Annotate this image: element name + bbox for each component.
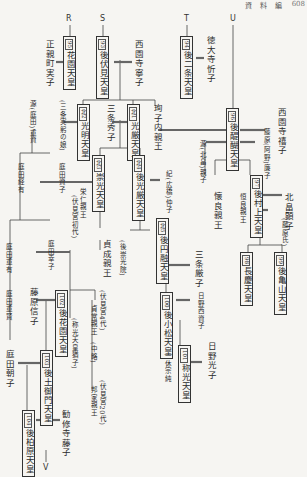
person-hino-mitsuko: 日野光子 bbox=[206, 342, 215, 380]
emperor-gokomatsu: 100後小松天皇 bbox=[160, 292, 173, 359]
person-kuniie: 邦家親王 bbox=[89, 386, 96, 416]
person-kajuji-fujiko: 勧修寺藤子 bbox=[60, 410, 69, 458]
person-tsuneyoshi: 恒良親王 bbox=[238, 193, 245, 223]
person-junshi: 珣子内親王 bbox=[152, 104, 161, 152]
emperor-godaigo: 96後醍醐天皇 bbox=[226, 108, 239, 171]
marker-t: T bbox=[184, 14, 189, 23]
emperor-gokashiwabara: 104後柏原天皇 bbox=[22, 410, 35, 477]
person-niwata-shigeari: 庭田重有 bbox=[4, 243, 11, 273]
emperor-kogon: 北1光厳天皇 bbox=[127, 104, 140, 161]
person-sadafusa: 貞成親王 bbox=[101, 240, 110, 278]
marker-s: S bbox=[100, 14, 105, 23]
person-niwata-asako: 庭田朝子 bbox=[4, 350, 13, 388]
person-kanemitsu-note: (称光天皇猶子) bbox=[70, 318, 77, 369]
person-niwata-tsunemasa: 庭田経有 bbox=[16, 163, 23, 193]
emperor-shoko: 101称光天皇 bbox=[178, 345, 191, 403]
person-sadatsune-note: (伏見宮4代) bbox=[98, 290, 105, 331]
person-fujiwara-shi: (藤原氏) bbox=[280, 218, 287, 247]
person-ki-nakako: 紀(広橋)仲子 bbox=[164, 170, 171, 214]
person-saionji-kishi: 西園寺禧子 bbox=[276, 108, 285, 156]
person-hino-sukeko: 日野西資子 bbox=[196, 292, 203, 330]
person-sanjo-saneaki-musume: (三条実躬の娘) bbox=[58, 100, 65, 151]
person-tokudaiji-kinko: 徳大寺忻子 bbox=[205, 36, 214, 84]
marker-r: R bbox=[66, 14, 72, 23]
person-gosukoin: (後崇光院) bbox=[118, 240, 125, 276]
omission-note: (中略) bbox=[89, 342, 96, 363]
person-fushiminomiya-1: (伏見宮初代) bbox=[70, 195, 77, 239]
marker-v: V bbox=[43, 463, 48, 472]
emperor-komyo: 北2光明天皇 bbox=[77, 104, 90, 161]
emperor-gotsuchimikado: 103後土御門天皇 bbox=[40, 350, 53, 426]
emperor-gofushimi: 93後伏見天皇 bbox=[96, 36, 109, 99]
emperor-suko: 北3崇光天皇 bbox=[92, 155, 105, 212]
emperor-gokameyama: 99後亀山天皇 bbox=[274, 252, 287, 315]
emperor-gomurakami: 97後村上天皇 bbox=[250, 175, 263, 238]
person-minamoto-shigesuke: 源(庭田)重資 bbox=[28, 100, 35, 144]
person-fushiminomiya-20: (伏見宮20代) bbox=[98, 380, 105, 425]
emperor-chokei: 98長慶天皇 bbox=[240, 252, 253, 306]
person-niwata-sachiko: 庭田幸子 bbox=[46, 240, 53, 270]
emperor-hanazono: 95花園天皇 bbox=[63, 36, 76, 90]
person-saionji-neiko: 西園寺寧子 bbox=[133, 40, 142, 88]
person-fujiwara-renshi: 藤原(阿野)廉子 bbox=[262, 128, 269, 179]
person-ogimachi-saneko: 正親町実子 bbox=[44, 40, 53, 88]
person-niwata-sukeko: 庭田資子 bbox=[57, 163, 64, 193]
person-sadatsune: 貞常親王 bbox=[89, 305, 96, 335]
marker-u: U bbox=[230, 14, 236, 23]
person-niwata-shigemasa: 庭田重賢 bbox=[4, 290, 11, 320]
emperor-gokogon: 北4後光厳天皇 bbox=[132, 155, 145, 221]
person-minamoto-renshi: 源(北畠)親子 bbox=[198, 140, 205, 184]
emperor-goenyu: 北5後円融天皇 bbox=[156, 218, 169, 284]
person-sanjo-hideko: 三条秀子 bbox=[105, 104, 114, 142]
person-ikkyu: 一休宗純 bbox=[163, 352, 170, 382]
person-fujiwara-nobuko: 藤原信子 bbox=[28, 288, 37, 326]
emperor-gohanazono: 102後花園天皇 bbox=[55, 290, 68, 357]
person-sanjo-itsuko: 三条厳子 bbox=[193, 250, 202, 288]
person-kanenaga: 懐良親王 bbox=[212, 192, 221, 230]
emperor-gonijo: 94後二条天皇 bbox=[180, 36, 193, 99]
person-yoshihito: 栄仁親王 bbox=[78, 188, 85, 218]
